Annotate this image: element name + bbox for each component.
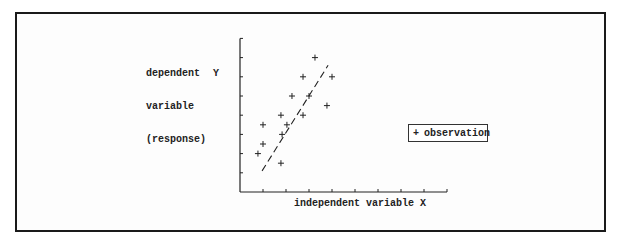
y-axis-symbol: Y (213, 68, 219, 79)
legend-label: observation (424, 128, 490, 139)
plus-marker-icon (306, 93, 312, 99)
y-axis-label-line-1: dependent (146, 68, 206, 79)
y-axis-label-line-3: (response) (146, 134, 206, 145)
dashed-fit-line (262, 65, 328, 171)
plus-marker-icon (329, 74, 335, 80)
plus-marker-icon (324, 103, 330, 109)
data-points (255, 55, 335, 167)
plus-marker-icon (289, 93, 295, 99)
plus-marker-icon (279, 131, 285, 137)
regression-line (262, 65, 328, 171)
plus-marker-icon (300, 74, 306, 80)
y-axis-label: dependent variable (response) (146, 46, 206, 156)
y-axis-label-line-2: variable (146, 101, 206, 112)
plus-marker-icon (260, 122, 266, 128)
plus-marker-icon (300, 112, 306, 118)
plus-marker-icon (260, 141, 266, 147)
axes (240, 38, 447, 192)
plus-marker-icon (278, 160, 284, 166)
plus-marker-icon (255, 151, 261, 157)
legend: + observation (408, 124, 488, 142)
plus-marker-icon (312, 55, 318, 61)
plus-marker-icon (278, 112, 284, 118)
plus-marker-icon (284, 122, 290, 128)
x-axis-label: independent variable X (294, 198, 426, 209)
plus-marker-icon: + (413, 128, 419, 139)
